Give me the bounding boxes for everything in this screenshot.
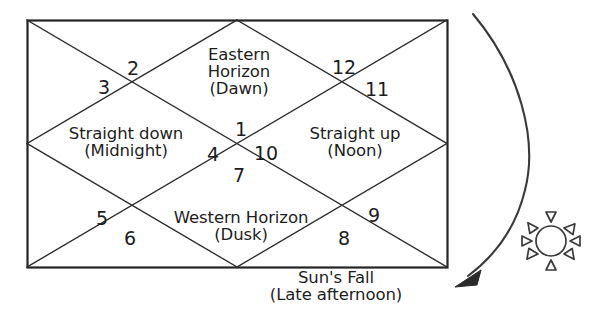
house-number-11: 11 [365, 80, 389, 100]
house-number-5: 5 [96, 209, 108, 229]
house-number-8: 8 [338, 229, 350, 249]
sun-icon [522, 212, 580, 270]
house-number-6: 6 [124, 229, 136, 249]
house-number-1: 1 [235, 120, 247, 140]
label-suns-fall: Sun's Fall(Late afternoon) [270, 269, 402, 303]
label-eastern-horizon: EasternHorizon(Dawn) [208, 46, 270, 97]
house-number-10: 10 [254, 144, 278, 164]
house-number-9: 9 [368, 206, 380, 226]
vedic-chart-diagram: 1 2 3 4 5 6 7 8 9 10 11 12 EasternHorizo… [0, 0, 612, 326]
sun-path-arc [468, 14, 529, 276]
house-number-7: 7 [233, 166, 245, 186]
house-number-3: 3 [98, 78, 110, 98]
label-straight-down: Straight down(Midnight) [69, 125, 183, 159]
house-number-4: 4 [207, 145, 219, 165]
house-number-12: 12 [332, 58, 356, 78]
arrow-head-icon [455, 270, 481, 287]
label-western-horizon: Western Horizon(Dusk) [174, 209, 309, 243]
house-number-2: 2 [127, 59, 139, 79]
label-straight-up: Straight up(Noon) [310, 125, 401, 159]
